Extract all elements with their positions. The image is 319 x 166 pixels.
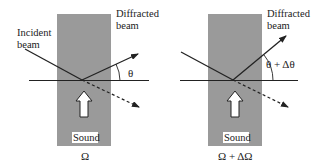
diffracted-beam-label-line1: Diffracted — [267, 8, 311, 19]
diffracted-beam-label-line1: Diffracted — [116, 8, 160, 19]
left-panel: Sound Ω Incident beam Diffracted beam θ — [17, 8, 160, 162]
acousto-optic-diagram: Sound Ω Incident beam Diffracted beam θ … — [0, 0, 319, 166]
frequency-label: Ω + ΔΩ — [218, 150, 253, 162]
sound-label: Sound — [73, 132, 101, 143]
sound-label: Sound — [224, 132, 252, 143]
angle-label: θ + Δθ — [266, 58, 295, 70]
incident-beam-label-line2: beam — [17, 39, 40, 50]
right-panel: Sound Ω + ΔΩ Diffracted beam θ + Δθ — [180, 8, 311, 162]
incident-beam-label-line1: Incident — [17, 27, 51, 38]
diffracted-beam-label-line2: beam — [116, 20, 139, 31]
frequency-label: Ω — [81, 150, 89, 162]
angle-arc — [116, 64, 120, 81]
diffracted-beam-label-line2: beam — [267, 20, 290, 31]
angle-label: θ — [128, 67, 133, 79]
